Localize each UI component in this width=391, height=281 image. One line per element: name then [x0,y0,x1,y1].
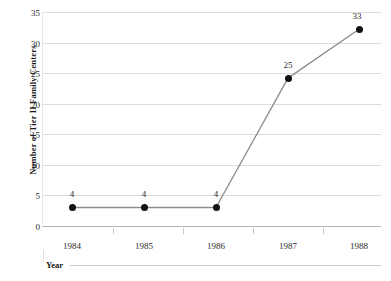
gridline-25 [43,73,381,74]
data-label-1987: 25 [268,61,308,70]
x-tick-label-1984: 1984 [42,242,102,251]
gridline-30 [43,43,381,44]
gridline-10 [43,165,381,166]
y-tick-label-20: 20 [16,101,40,110]
x-axis-title: Year [46,260,70,270]
y-tick-label-30: 30 [16,40,40,49]
data-point-1987 [285,75,292,82]
data-label-1984: 4 [52,190,92,199]
y-tick-label-35: 35 [16,9,40,18]
y-tick-label-0: 0 [16,223,40,232]
data-label-1986: 4 [196,190,236,199]
chart-container: Number of Tier II Family Centers 35 30 2… [0,0,391,281]
x-axis-line [43,226,381,227]
gridline-15 [43,134,381,135]
x-tick-label-1985: 1985 [114,242,174,251]
x-axis-title-block: Year [46,258,381,272]
x-axis-title-rule [70,265,381,266]
gridline-35 [43,12,381,13]
gridline-20 [43,104,381,105]
x-axis-title-stub [43,250,44,262]
data-point-1988 [356,26,363,33]
y-tick-label-5: 5 [16,192,40,201]
data-label-1985: 4 [124,190,164,199]
x-tick-mark-4 [323,228,324,234]
data-point-1986 [213,204,220,211]
x-tick-mark-3 [253,228,254,234]
x-tick-label-1987: 1987 [258,242,318,251]
data-point-1984 [69,204,76,211]
y-tick-label-10: 10 [16,162,40,171]
x-tick-label-1986: 1986 [186,242,246,251]
y-tick-label-15: 15 [16,131,40,140]
y-tick-label-25: 25 [16,70,40,79]
x-tick-label-1988: 1988 [329,242,389,251]
data-point-1985 [141,204,148,211]
x-tick-mark-1 [113,228,114,234]
data-label-1988: 33 [337,12,377,21]
x-tick-mark-2 [183,228,184,234]
